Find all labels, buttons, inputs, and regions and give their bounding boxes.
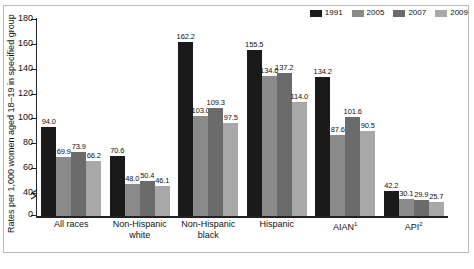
bar-holder: 69.9 (56, 18, 71, 216)
legend-label-2009: 2009 (450, 9, 468, 17)
x-axis-label: API2 (380, 219, 449, 241)
x-axis-label: Hispanic (243, 219, 312, 241)
bar-holder: 66.2 (86, 18, 101, 216)
bar-1991[interactable] (41, 127, 56, 216)
chart-legend: 1991 2005 2007 2009 (310, 9, 468, 17)
bar-holder: 30.1 (399, 18, 414, 216)
bar-set: 42.230.129.925.7 (380, 18, 449, 216)
y-tick-label: 0 (28, 209, 33, 220)
bar-holder: 29.9 (414, 18, 429, 216)
bar-value-label: 87.6 (331, 125, 345, 134)
bar-value-label: 29.9 (414, 190, 428, 199)
bar-set: 134.287.6101.690.5 (311, 18, 380, 216)
y-tick-label: 180 (18, 13, 33, 24)
bar-value-label: 103.0 (192, 106, 210, 115)
bar-2009[interactable] (429, 202, 444, 216)
bar-value-label: 101.6 (344, 107, 362, 116)
bar-holder: 46.1 (155, 18, 170, 216)
bar-value-label: 155.5 (245, 40, 263, 49)
bar-value-label: 114.0 (290, 92, 308, 101)
bar-2005[interactable] (330, 135, 345, 216)
bar-value-label: 109.3 (207, 98, 225, 107)
legend-label-1991: 1991 (325, 9, 343, 17)
bar-1991[interactable] (384, 191, 399, 216)
bar-1991[interactable] (178, 42, 193, 216)
bar-value-label: 25.7 (429, 192, 443, 201)
y-tick-label: 100 (18, 112, 33, 123)
bar-holder: 73.9 (71, 18, 86, 216)
bar-2005[interactable] (125, 184, 140, 216)
y-axis-title: Rates per 1,000 women aged 18–19 in spec… (4, 18, 18, 233)
bar-2007[interactable] (345, 117, 360, 216)
legend-item-2005: 2005 (352, 9, 385, 17)
bar-2009[interactable] (292, 102, 307, 216)
bar-2007[interactable] (140, 181, 155, 216)
bar-groups: 94.069.973.966.270.648.050.446.1162.2103… (37, 18, 448, 216)
y-tick-label: 60 (23, 162, 33, 173)
bar-2007[interactable] (208, 108, 223, 216)
legend-item-2007: 2007 (393, 9, 426, 17)
bar-value-label: 137.2 (275, 63, 293, 72)
y-tick-label: 120 (18, 88, 33, 99)
bar-holder: 155.5 (247, 18, 262, 216)
bar-2007[interactable] (414, 200, 429, 216)
bar-2005[interactable] (399, 199, 414, 216)
bar-value-label: 69.9 (57, 147, 71, 156)
axis-break-icon (30, 188, 44, 202)
x-axis-label: AIAN1 (311, 219, 380, 241)
bar-group: 162.2103.0109.397.5 (174, 18, 243, 216)
bar-2009[interactable] (86, 161, 101, 216)
bar-value-label: 50.4 (140, 171, 154, 180)
bar-holder: 101.6 (345, 18, 360, 216)
bar-value-label: 73.9 (72, 142, 86, 151)
bar-value-label: 70.6 (110, 146, 124, 155)
bar-value-label: 48.0 (125, 174, 139, 183)
x-axis-labels: All racesNon-HispanicwhiteNon-Hispanicbl… (37, 219, 448, 241)
y-tick-label: 160 (18, 38, 33, 49)
bar-holder: 103.0 (193, 18, 208, 216)
y-tick-label: 140 (18, 63, 33, 74)
bar-set: 162.2103.0109.397.5 (174, 18, 243, 216)
bar-value-label: 162.2 (177, 32, 195, 41)
legend-swatch-2007 (393, 10, 405, 17)
bar-value-label: 94.0 (42, 117, 56, 126)
bar-holder: 90.5 (360, 18, 375, 216)
x-axis-label: Non-Hispanicblack (174, 219, 243, 241)
bar-2009[interactable] (223, 123, 238, 216)
bar-2009[interactable] (155, 186, 170, 216)
bar-1991[interactable] (110, 156, 125, 216)
bar-value-label: 134.2 (314, 67, 332, 76)
bar-holder: 134.2 (315, 18, 330, 216)
bar-holder: 25.7 (429, 18, 444, 216)
bar-2005[interactable] (56, 157, 71, 216)
bar-value-label: 66.2 (87, 151, 101, 160)
x-axis-label: All races (37, 219, 106, 241)
bar-holder: 114.0 (292, 18, 307, 216)
bar-set: 94.069.973.966.2 (37, 18, 106, 216)
bar-set: 70.648.050.446.1 (106, 18, 175, 216)
bar-group: 70.648.050.446.1 (106, 18, 175, 216)
bar-holder: 162.2 (178, 18, 193, 216)
bar-group: 155.5134.6137.2114.0 (243, 18, 312, 216)
legend-swatch-1991 (310, 10, 322, 17)
legend-label-2007: 2007 (408, 9, 426, 17)
y-tick-label: 80 (23, 137, 33, 148)
bar-2007[interactable] (71, 152, 86, 216)
bar-holder: 50.4 (140, 18, 155, 216)
bar-value-label: 90.5 (361, 121, 375, 130)
bar-2005[interactable] (262, 76, 277, 216)
legend-swatch-2009 (435, 10, 447, 17)
bar-value-label: 30.1 (399, 189, 413, 198)
bar-group: 42.230.129.925.7 (380, 18, 449, 216)
bar-2005[interactable] (193, 116, 208, 216)
bar-group: 94.069.973.966.2 (37, 18, 106, 216)
legend-item-1991: 1991 (310, 9, 343, 17)
bar-holder: 97.5 (223, 18, 238, 216)
bar-2009[interactable] (360, 131, 375, 216)
x-axis-line (36, 216, 448, 218)
bar-1991[interactable] (315, 77, 330, 216)
legend-swatch-2005 (352, 10, 364, 17)
bar-holder: 134.6 (262, 18, 277, 216)
legend-label-2005: 2005 (367, 9, 385, 17)
bar-holder: 87.6 (330, 18, 345, 216)
